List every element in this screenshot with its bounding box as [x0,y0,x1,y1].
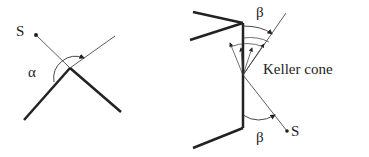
beta-top-label: β [256,4,264,20]
source-label: S [291,123,299,139]
cone-arc [230,44,264,48]
source-point [34,33,38,37]
keller-cone-label: Keller cone [263,61,333,77]
wedge-face-right [70,68,121,112]
bottom-face [193,128,243,148]
diffracted-ray [70,36,115,68]
cone-ray [243,48,252,75]
angle-arc-beta-bottom [243,115,275,120]
cone-ray [243,44,264,75]
beta-bottom-label: β [256,129,264,145]
alpha-label: α [28,64,36,80]
right-keller-diagram: β β Keller cone S [190,4,333,148]
diffraction-diagram: S α β β Keller cone S [0,0,369,157]
top-face-upper [193,12,243,23]
cone-ray [230,43,243,75]
source-point [285,129,289,133]
top-face-lower [190,23,243,40]
left-wedge-diagram: S α [16,23,121,120]
incident-ray [243,75,287,131]
source-label: S [16,23,24,39]
angle-arc-beta-top [243,26,272,34]
incident-ray [36,35,70,68]
cone-arc-upper [243,38,269,43]
